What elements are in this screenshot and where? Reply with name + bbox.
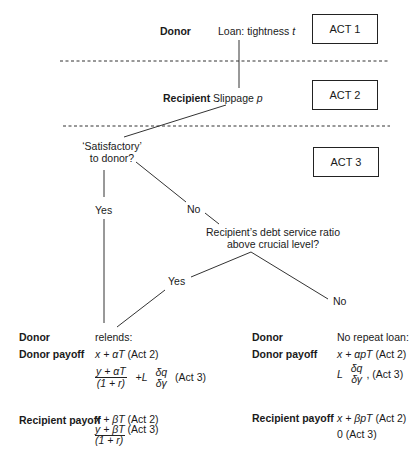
question-debt-service-line2: above crucial level? [193,238,353,250]
right-recipient-payoff-act2-tag: (Act 2) [372,412,406,424]
act2-actor: Recipient [163,92,210,104]
left-donor-payoff-label: Donor payoff [19,348,84,360]
act1-actor: Donor [160,25,191,37]
right-donor-label: Donor [252,331,283,343]
act-3-box: ACT 3 [313,147,379,177]
right-recipient-payoff-act3: 0 (Act 3) [337,428,377,440]
right-donor-payoff-l: L [337,368,343,380]
left-donor-payoff-act2-expr: x + αT [95,348,125,360]
right-donor-payoff-act2-tag: (Act 2) [372,348,406,360]
left-donor-payoff-act2-tag: (Act 2) [125,348,159,360]
branch-yes-1: Yes [95,204,112,216]
question-satisfactory-line2: to donor? [72,152,152,164]
act-1-box: ACT 1 [312,14,378,44]
right-recipient-payoff-act2-expr: x + βpT [337,412,372,424]
left-donor-payoff-derivative: δqδγ [154,367,168,389]
fraction-denominator: (1 + r) [95,378,127,389]
branch-no-2: No [333,295,346,307]
left-donor-payoff-act2: x + αT (Act 2) [95,348,158,360]
right-donor-payoff-act3: L δqδγ , (Act 3) [337,363,403,385]
left-donor-payoff-act3: y + αT(1 + r) +L δqδγ (Act 3) [95,366,206,389]
act1-action: Loan: tightness t [218,25,295,37]
derivative-denominator: δγ [154,378,168,389]
question-debt-service-line1: Recipient’s debt service ratio [193,226,353,238]
act-2-box: ACT 2 [312,80,378,110]
right-donor-payoff-derivative: δqδγ [350,363,364,385]
branch-no-1: No [187,203,200,215]
act-1-label: ACT 1 [330,23,361,35]
left-donor-payoff-act3-fraction: y + αT(1 + r) [95,366,127,389]
derivative-numerator: δq [154,367,168,378]
left-recipient-payoff-act3-tag: (Act 3) [125,423,159,435]
right-donor-action: No repeat loan: [337,331,409,343]
act2-action-var: p [257,92,263,104]
left-donor-payoff-plus-l: +L [136,371,148,383]
right-donor-payoff-act2: x + αpT (Act 2) [337,348,406,360]
act-2-label: ACT 2 [330,89,361,101]
act-3-label: ACT 3 [331,156,362,168]
right-recipient-payoff-act2: x + βpT (Act 2) [337,412,406,424]
question-satisfactory: ‘Satisfactory’ to donor? [72,140,152,164]
left-recipient-payoff: x + βT (Act 2) y + βT (Act 3) (1 + r) [95,414,158,445]
right-donor-payoff-label: Donor payoff [252,348,317,360]
act2-action: Slippage p [213,92,263,104]
left-donor-payoff-act3-tag: (Act 3) [175,371,206,383]
left-recipient-payoff-label: Recipient payoff [19,414,101,426]
right-donor-payoff-act2-expr: x + αpT [337,348,372,360]
question-satisfactory-line1: ‘Satisfactory’ [72,140,152,152]
act1-action-var: t [292,25,295,37]
act1-action-text: Loan: tightness [218,25,292,37]
right-donor-payoff-act3-tag: , (Act 3) [366,368,403,380]
left-donor-action: relends: [95,331,132,343]
act2-action-text: Slippage [213,92,257,104]
left-donor-label: Donor [19,331,50,343]
left-recipient-payoff-act3-den: (1 + r) [95,435,158,445]
question-debt-service: Recipient’s debt service ratio above cru… [193,226,353,250]
branch-yes-2: Yes [168,275,185,287]
derivative-denominator: δγ [350,374,364,385]
right-recipient-payoff-label: Recipient payoff [252,412,334,424]
